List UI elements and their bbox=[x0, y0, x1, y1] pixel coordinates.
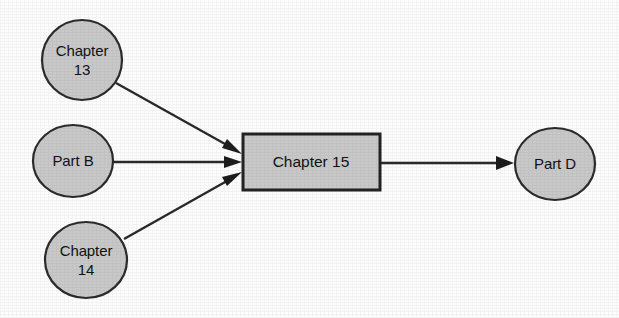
edge-chapter14-line bbox=[124, 177, 234, 239]
edge-partb-arrowhead bbox=[224, 156, 242, 168]
edge-partd-arrowhead bbox=[496, 156, 514, 170]
edge-chapter13-line bbox=[116, 83, 234, 149]
edge-chapter14-arrowhead bbox=[222, 172, 242, 186]
node-part-b[interactable]: Part B bbox=[33, 125, 113, 197]
edge-partb-to-chapter15[interactable] bbox=[113, 156, 242, 168]
edge-chapter15-to-partd[interactable] bbox=[380, 156, 514, 170]
chapter-14-label-line1: Chapter bbox=[60, 242, 113, 259]
diagram-svg: Chapter 13 Part B Chapter 14 Chapter 15 … bbox=[0, 0, 619, 318]
chapter-14-label-line2: 14 bbox=[78, 261, 95, 278]
node-part-d[interactable]: Part D bbox=[515, 128, 595, 200]
diagram-canvas: Chapter 13 Part B Chapter 14 Chapter 15 … bbox=[0, 0, 619, 318]
part-b-label: Part B bbox=[52, 152, 93, 169]
edge-chapter13-to-chapter15[interactable] bbox=[116, 83, 242, 154]
edge-chapter14-to-chapter15[interactable] bbox=[124, 172, 242, 239]
edge-chapter13-arrowhead bbox=[222, 139, 242, 154]
part-d-label: Part D bbox=[534, 155, 576, 172]
node-chapter-15[interactable]: Chapter 15 bbox=[243, 134, 380, 190]
node-chapter-13[interactable]: Chapter 13 bbox=[42, 20, 122, 100]
chapter-13-label-line2: 13 bbox=[74, 61, 91, 78]
chapter-15-label: Chapter 15 bbox=[273, 153, 350, 170]
chapter-13-label-line1: Chapter bbox=[56, 42, 109, 59]
node-chapter-14[interactable]: Chapter 14 bbox=[45, 222, 127, 298]
